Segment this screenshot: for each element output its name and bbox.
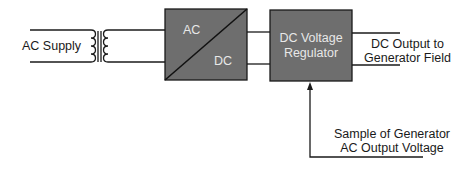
output-label-line2: Generator Field bbox=[360, 51, 455, 66]
transformer-primary-coil-icon bbox=[91, 30, 96, 62]
sample-label-line1: Sample of Generator bbox=[327, 127, 457, 142]
output-label-line1: DC Output to bbox=[360, 37, 455, 52]
regulator-label-line2: Regulator bbox=[270, 46, 352, 61]
feedback-arrow-icon bbox=[307, 82, 313, 90]
transformer-secondary-coil-icon bbox=[104, 30, 109, 62]
rectifier-dc-label: DC bbox=[214, 54, 232, 69]
regulator-label-line1: DC Voltage bbox=[270, 31, 352, 46]
ac-supply-label: AC Supply bbox=[22, 39, 81, 54]
sample-label-line2: AC Output Voltage bbox=[327, 141, 457, 156]
rectifier-ac-label: AC bbox=[183, 23, 200, 38]
